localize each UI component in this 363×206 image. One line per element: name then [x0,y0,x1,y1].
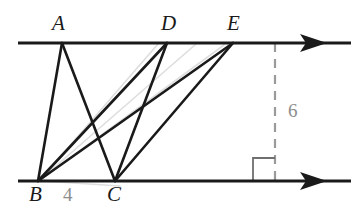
vertex-label-e: E [227,13,240,34]
triangle-segments [38,43,233,181]
base-length-label: 4 [63,185,73,204]
vertex-label-a: A [52,13,65,34]
height-length-label: 6 [288,101,298,120]
vertex-label-b: B [29,184,42,205]
top-parallel-line [18,34,351,52]
segment-AC [62,43,115,181]
vertex-label-d: D [161,13,176,34]
vertex-label-c: C [107,184,121,205]
segment-EB [38,43,233,181]
geometry-figure: A D E B C 4 6 [0,0,363,206]
right-angle-icon [253,158,275,181]
